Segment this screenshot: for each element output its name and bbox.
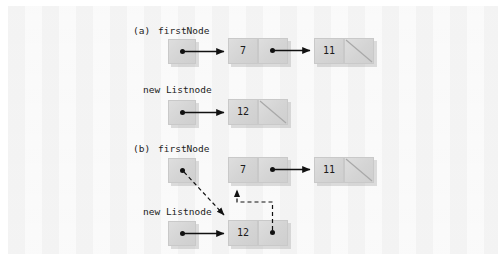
dashed-arrow-node12-to-node7-b bbox=[237, 190, 273, 230]
diagram-arrows-layer bbox=[0, 0, 498, 267]
null-slash-node11-a bbox=[346, 40, 372, 62]
null-slash-node11-b bbox=[346, 159, 372, 181]
null-slash-node12-a bbox=[260, 101, 286, 123]
dashed-arrow-firstnode-to-node12-b bbox=[184, 172, 224, 215]
figure-canvas: (a) firstNode 7 11 new Listnode 12 (b) f… bbox=[0, 0, 498, 267]
